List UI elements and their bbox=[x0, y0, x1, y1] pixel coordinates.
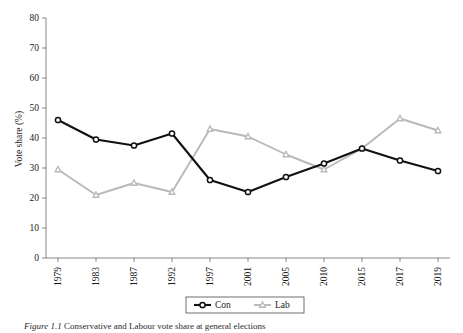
data-point-circle bbox=[207, 177, 212, 182]
y-tick-label: 20 bbox=[30, 193, 40, 203]
data-point-circle bbox=[93, 137, 98, 142]
data-point-circle bbox=[435, 168, 440, 173]
x-tick-label: 2015 bbox=[357, 267, 367, 286]
y-tick-label: 10 bbox=[30, 223, 40, 233]
data-point-circle bbox=[169, 131, 174, 136]
data-point-circle bbox=[55, 117, 60, 122]
y-axis-title-label: Vote share (%) bbox=[14, 111, 25, 167]
y-tick-label: 80 bbox=[30, 13, 40, 23]
data-point-circle bbox=[321, 161, 326, 166]
legend-label-con[interactable]: Con bbox=[215, 300, 231, 310]
line-chart: 01020304050607080 1979198319871992199720… bbox=[0, 0, 463, 333]
x-tick-label: 2019 bbox=[433, 267, 443, 286]
x-tick-label: 2010 bbox=[319, 267, 329, 286]
chart-legend[interactable]: ConLab bbox=[186, 297, 304, 313]
x-tick-label: 1987 bbox=[129, 267, 139, 286]
data-point-circle bbox=[283, 174, 288, 179]
y-tick-label: 40 bbox=[30, 133, 40, 143]
x-axis-ticks: 1979198319871992199720012005201020152017… bbox=[53, 258, 443, 286]
x-tick-label: 1997 bbox=[205, 267, 215, 286]
y-tick-label: 70 bbox=[30, 43, 40, 53]
y-tick-label: 0 bbox=[34, 253, 39, 263]
x-tick-label: 1992 bbox=[167, 267, 177, 286]
figure-caption-label: Figure 1.1 bbox=[24, 321, 62, 331]
y-tick-label: 60 bbox=[30, 73, 40, 83]
x-tick-label: 1983 bbox=[91, 267, 101, 286]
data-point-circle bbox=[397, 158, 402, 163]
figure-caption-body: Conservative and Labour vote share at ge… bbox=[64, 321, 266, 331]
x-tick-label: 1979 bbox=[53, 267, 63, 286]
x-tick-label: 2017 bbox=[395, 267, 405, 286]
x-tick-label: 2005 bbox=[281, 267, 291, 286]
figure-container: 01020304050607080 1979198319871992199720… bbox=[0, 0, 463, 333]
legend-label-lab[interactable]: Lab bbox=[275, 300, 290, 310]
y-tick-label: 50 bbox=[30, 103, 40, 113]
x-tick-label: 2001 bbox=[243, 267, 253, 286]
figure-caption: Figure 1.1 Conservative and Labour vote … bbox=[24, 321, 444, 332]
legend-marker-circle[interactable] bbox=[200, 302, 205, 307]
data-point-circle bbox=[359, 146, 364, 151]
y-axis-title: Vote share (%) bbox=[14, 111, 25, 167]
y-axis-ticks: 01020304050607080 bbox=[30, 13, 47, 263]
data-point-circle bbox=[131, 143, 136, 148]
data-point-circle bbox=[245, 189, 250, 194]
y-tick-label: 30 bbox=[30, 163, 40, 173]
